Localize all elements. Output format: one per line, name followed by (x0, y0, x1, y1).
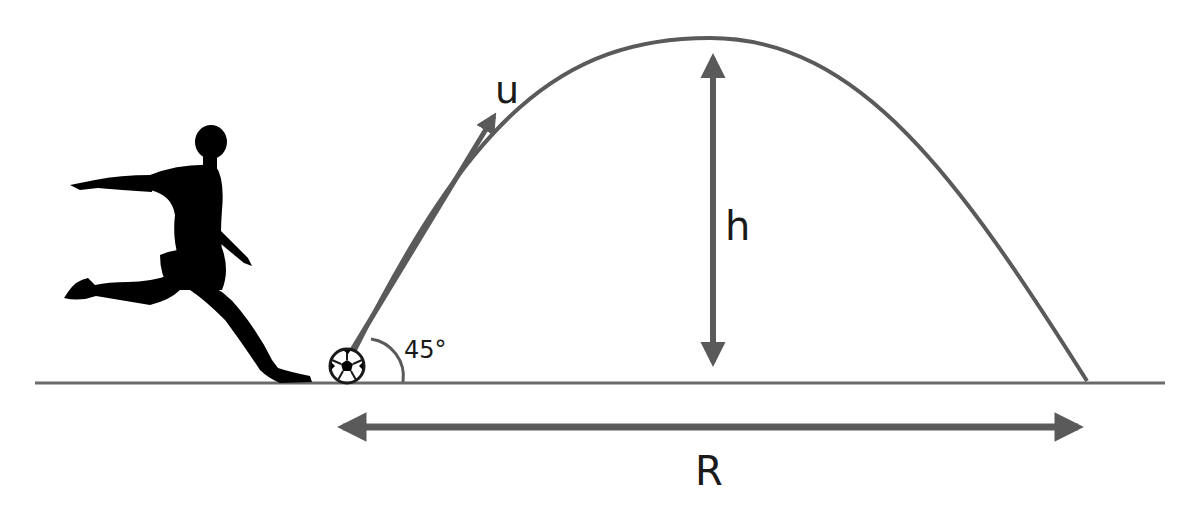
velocity-arrow (352, 116, 494, 350)
angle-label: 45° (404, 336, 447, 364)
projectile-diagram (0, 0, 1201, 511)
height-label: h (725, 203, 750, 249)
trajectory-curve (355, 38, 1087, 381)
football-icon (330, 349, 364, 383)
velocity-label: u (495, 68, 519, 112)
player-silhouette-icon (64, 125, 312, 383)
angle-arc (371, 339, 403, 382)
range-label: R (695, 448, 723, 494)
